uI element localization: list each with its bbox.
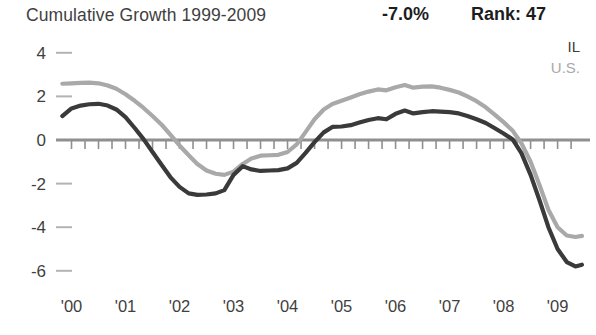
chart-container: Cumulative Growth 1999-2009 -7.0% Rank: … <box>0 0 596 335</box>
svg-text:'03: '03 <box>223 297 245 315</box>
svg-text:'04: '04 <box>277 297 299 315</box>
svg-text:-6: -6 <box>31 262 46 281</box>
plot-area: 420-2-4-6 '00'01'02'03'04'05'06'07'08'09 <box>0 0 596 335</box>
x-axis-labels: '00'01'02'03'04'05'06'07'08'09 <box>61 297 569 315</box>
svg-text:-2: -2 <box>31 175 46 194</box>
svg-text:'08: '08 <box>493 297 515 315</box>
svg-text:'06: '06 <box>385 297 407 315</box>
svg-text:'00: '00 <box>61 297 83 315</box>
svg-text:2: 2 <box>37 87 46 106</box>
y-axis-labels: 420-2-4-6 <box>31 44 46 281</box>
svg-text:0: 0 <box>37 131 46 150</box>
svg-text:'01: '01 <box>115 297 137 315</box>
svg-text:'02: '02 <box>169 297 191 315</box>
svg-text:'05: '05 <box>331 297 353 315</box>
svg-text:'09: '09 <box>547 297 569 315</box>
svg-text:4: 4 <box>37 44 46 63</box>
chart-svg: 420-2-4-6 '00'01'02'03'04'05'06'07'08'09 <box>0 0 596 335</box>
svg-text:-4: -4 <box>31 218 46 237</box>
svg-text:'07: '07 <box>439 297 461 315</box>
series-lines <box>62 83 582 267</box>
